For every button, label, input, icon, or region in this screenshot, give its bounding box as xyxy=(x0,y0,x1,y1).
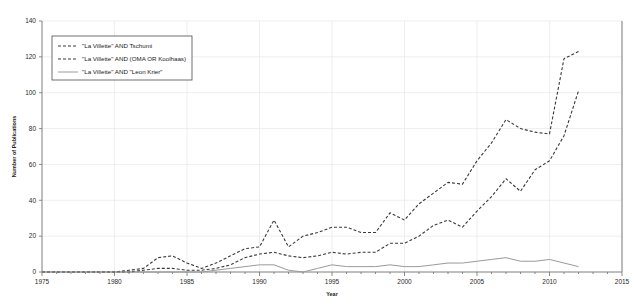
legend-label-3: "La Villette" AND "Leon Krier" xyxy=(82,68,163,75)
x-tick-label: 1980 xyxy=(107,278,122,285)
chart-figure: 0204060801001201401975198019851990199520… xyxy=(0,0,638,306)
y-tick-label: 120 xyxy=(25,53,36,60)
x-tick-label: 1995 xyxy=(325,278,340,285)
y-tick-label: 0 xyxy=(32,268,36,275)
x-tick-label: 1985 xyxy=(180,278,195,285)
x-tick-label: 2000 xyxy=(397,278,412,285)
line-chart-canvas: 0204060801001201401975198019851990199520… xyxy=(0,0,638,306)
series-line-3 xyxy=(42,258,579,272)
series-line-1 xyxy=(42,51,579,272)
y-tick-label: 20 xyxy=(29,232,37,239)
x-tick-label: 2005 xyxy=(470,278,485,285)
series-line-2 xyxy=(42,91,579,272)
legend-label-1: "La Villette" AND Tschumi xyxy=(82,42,152,49)
y-tick-label: 60 xyxy=(29,161,37,168)
y-axis-title: Number of Publications xyxy=(11,116,17,178)
legend-label-2: "La Villette" AND (OMA OR Koolhaas) xyxy=(82,55,186,62)
y-tick-label: 140 xyxy=(25,17,36,24)
x-tick-label: 2010 xyxy=(542,278,557,285)
y-tick-label: 100 xyxy=(25,89,36,96)
y-tick-label: 80 xyxy=(29,125,37,132)
x-tick-label: 1990 xyxy=(252,278,267,285)
x-tick-label: 1975 xyxy=(35,278,50,285)
x-tick-label: 2015 xyxy=(615,278,630,285)
y-tick-label: 40 xyxy=(29,197,37,204)
x-axis-title: Year xyxy=(326,291,338,297)
